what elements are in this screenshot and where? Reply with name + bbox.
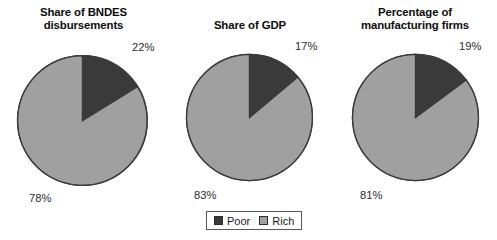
pie-panel-manufacturing: Percentage of manufacturing firms bbox=[333, 0, 497, 206]
panel-title-line-2: manufacturing firms bbox=[333, 19, 497, 32]
slice-value-poor-manufacturing: 19% bbox=[459, 40, 481, 52]
legend-item-rich: Rich bbox=[259, 215, 294, 227]
panel-title-line-1: Share of BNDES bbox=[0, 6, 167, 19]
legend-label-rich: Rich bbox=[272, 215, 294, 227]
pie-bndes-svg bbox=[12, 50, 153, 191]
panel-title-gdp: Share of GDP bbox=[167, 19, 333, 32]
slice-value-rich-gdp: 83% bbox=[194, 189, 216, 201]
pie-gdp bbox=[181, 49, 318, 186]
legend-swatch-rich-icon bbox=[259, 216, 268, 225]
pie-gdp-svg bbox=[181, 49, 318, 186]
legend-label-poor: Poor bbox=[227, 215, 250, 227]
pie-panel-gdp: Share of GDP bbox=[167, 0, 333, 206]
pie-chart-figure: Share of BNDES disbursements Share of GD… bbox=[0, 0, 497, 240]
panel-title-line-1: Share of GDP bbox=[167, 19, 333, 32]
slice-value-poor-gdp: 17% bbox=[295, 40, 317, 52]
pie-manufacturing bbox=[347, 49, 484, 186]
chart-legend: Poor Rich bbox=[206, 211, 302, 230]
legend-swatch-poor-icon bbox=[214, 216, 223, 225]
panel-title-manufacturing: Percentage of manufacturing firms bbox=[333, 6, 497, 32]
panel-title-bndes: Share of BNDES disbursements bbox=[0, 6, 167, 32]
pie-panel-bndes: Share of BNDES disbursements bbox=[0, 0, 167, 206]
pie-bndes bbox=[12, 50, 153, 191]
panel-title-line-1: Percentage of bbox=[333, 6, 497, 19]
legend-item-poor: Poor bbox=[214, 215, 250, 227]
slice-value-poor-bndes: 22% bbox=[132, 41, 154, 53]
slice-value-rich-bndes: 78% bbox=[29, 192, 51, 204]
panel-title-line-2: disbursements bbox=[0, 19, 167, 32]
pie-manufacturing-svg bbox=[347, 49, 484, 186]
slice-value-rich-manufacturing: 81% bbox=[360, 189, 382, 201]
